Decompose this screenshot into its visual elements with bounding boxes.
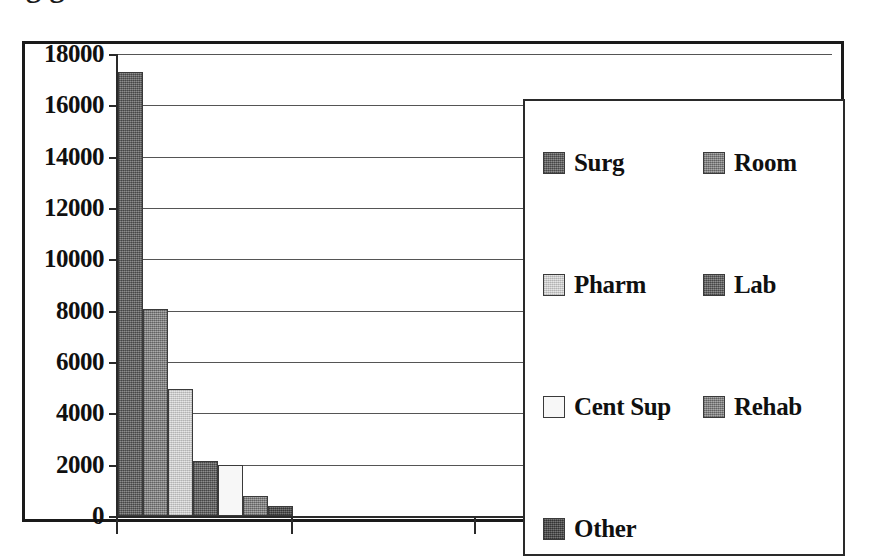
bar-lab: [193, 461, 218, 516]
legend-item-label: Rehab: [734, 393, 802, 421]
y-axis-tick-mark: [109, 362, 117, 364]
legend-item-cent-sup[interactable]: Cent Sup: [543, 393, 671, 421]
legend-swatch-icon: [543, 396, 565, 418]
bar-other: [268, 506, 293, 516]
y-axis-tick-mark: [109, 465, 117, 467]
x-axis-tick-mark: [116, 518, 118, 534]
legend-swatch-icon: [703, 396, 725, 418]
bar-surg: [118, 72, 143, 516]
y-axis-tick-mark: [109, 208, 117, 210]
chart-frame: 0200040006000800010000120001400016000180…: [22, 41, 844, 522]
y-axis-tick-mark: [109, 259, 117, 261]
legend-swatch-icon: [543, 274, 565, 296]
y-axis-tick-label: 18000: [44, 40, 104, 68]
y-axis-tick-label: 8000: [56, 297, 104, 325]
legend-swatch-icon: [703, 274, 725, 296]
y-axis-tick-label: 12000: [44, 194, 104, 222]
bar-pharm: [168, 389, 193, 516]
legend-item-pharm[interactable]: Pharm: [543, 271, 646, 299]
legend-swatch-icon: [703, 152, 725, 174]
chart-legend: SurgRoomPharmLabCent SupRehabOther: [523, 99, 845, 556]
legend-swatch-icon: [543, 152, 565, 174]
y-axis-tick-mark: [109, 311, 117, 313]
legend-item-lab[interactable]: Lab: [703, 271, 776, 299]
y-axis-tick-label: 10000: [44, 245, 104, 273]
bar-room: [143, 309, 168, 516]
y-axis-tick-mark: [109, 157, 117, 159]
legend-item-label: Lab: [734, 271, 776, 299]
bar-cent-sup: [218, 465, 243, 516]
cropped-title-remnant: g g: [26, 0, 846, 4]
legend-items: SurgRoomPharmLabCent SupRehabOther: [543, 149, 833, 539]
legend-item-room[interactable]: Room: [703, 149, 797, 177]
y-axis-tick-label: 4000: [56, 399, 104, 427]
y-axis-tick-label: 2000: [56, 451, 104, 479]
legend-item-surg[interactable]: Surg: [543, 149, 624, 177]
legend-swatch-icon: [543, 518, 565, 540]
y-axis-tick-label: 14000: [44, 143, 104, 171]
y-axis-tick-mark: [109, 413, 117, 415]
legend-item-rehab[interactable]: Rehab: [703, 393, 802, 421]
y-axis-tick-label: 0: [92, 502, 104, 530]
y-axis-tick-mark: [109, 105, 117, 107]
legend-item-label: Other: [574, 515, 636, 543]
legend-item-label: Surg: [574, 149, 624, 177]
y-axis-tick-label: 16000: [44, 91, 104, 119]
bar-rehab: [243, 496, 268, 516]
y-axis-tick-label: 6000: [56, 348, 104, 376]
y-axis-tick-mark: [109, 54, 117, 56]
legend-item-label: Cent Sup: [574, 393, 671, 421]
legend-item-label: Pharm: [574, 271, 646, 299]
legend-item-other[interactable]: Other: [543, 515, 636, 543]
legend-item-label: Room: [734, 149, 797, 177]
x-axis-tick-mark: [291, 518, 293, 534]
x-axis-tick-mark: [474, 518, 476, 534]
